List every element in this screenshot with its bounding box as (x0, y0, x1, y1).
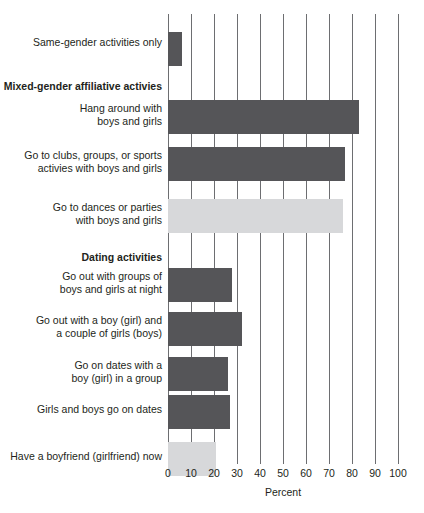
gridline-90 (375, 14, 376, 464)
gridline-40 (260, 14, 261, 464)
bar (168, 357, 228, 391)
gridline-80 (352, 14, 353, 464)
gridline-60 (306, 14, 307, 464)
bar (168, 100, 359, 134)
bar-row-label: Girls and boys go on dates (0, 403, 162, 416)
bar (168, 268, 232, 302)
x-tick-label: 50 (277, 466, 289, 480)
x-tick-label: 90 (369, 466, 381, 480)
bar-row-label: Go out with a boy (girl) and a couple of… (0, 314, 162, 339)
x-tick-label: 40 (254, 466, 266, 480)
gridline-50 (283, 14, 284, 464)
group-header-label: Dating activities (0, 251, 162, 264)
x-tick-label: 80 (346, 466, 358, 480)
x-tick-label: 0 (165, 466, 171, 480)
x-tick-label: 70 (323, 466, 335, 480)
bar-row-label: Go on dates with a boy (girl) in a group (0, 359, 162, 384)
bar (168, 32, 182, 66)
bar (168, 395, 230, 429)
bar (168, 199, 343, 233)
x-tick-label: 10 (185, 466, 197, 480)
gridline-100 (398, 14, 399, 464)
bar-row-label: Go out with groups of boys and girls at … (0, 270, 162, 295)
bar-row-label: Go to clubs, groups, or sports activies … (0, 149, 162, 174)
x-axis-title: Percent (168, 486, 398, 498)
x-tick-label: 30 (231, 466, 243, 480)
bar (168, 147, 345, 181)
bar-row-label: Hang around with boys and girls (0, 102, 162, 127)
x-axis-tick-labels: 0102030405060708090100 (0, 466, 424, 482)
gridline-70 (329, 14, 330, 464)
x-tick-label: 100 (389, 466, 407, 480)
x-tick-label: 20 (208, 466, 220, 480)
bar-row-label: Same-gender activities only (0, 36, 162, 49)
bar-chart: Same-gender activities onlyMixed-gender … (0, 0, 424, 513)
group-header-label: Mixed-gender affiliative activies (0, 80, 162, 93)
x-tick-label: 60 (300, 466, 312, 480)
bar (168, 312, 242, 346)
bar-row-label: Go to dances or parties with boys and gi… (0, 201, 162, 226)
gridline-30 (237, 14, 238, 464)
bar-row-label: Have a boyfriend (girlfriend) now (0, 450, 162, 463)
